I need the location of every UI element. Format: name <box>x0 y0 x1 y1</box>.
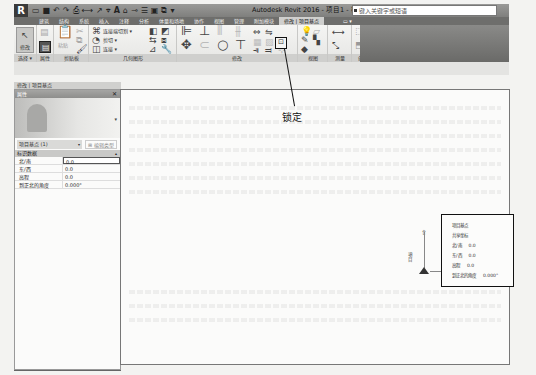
revit-window: R ▭ ■ ↶ ↷ ⎙ ⟷ ↗ ⌖ A ⌂ ⊸ ☰ ▣ ⧉ ▾ Autodesk… <box>0 0 536 375</box>
panel-clipboard: 📋 粘贴 ✂ ⧉ 🖌 剪贴板 <box>54 25 89 62</box>
properties-icon: ▤ <box>42 43 50 52</box>
filter-row: 项目基点 (1) ▾ ⊞ 编辑类型 <box>15 138 120 150</box>
panel-properties-label: 属性 <box>37 54 53 62</box>
element-filter-select[interactable]: 项目基点 (1) ▾ <box>17 140 82 149</box>
base-point-info-box: 项目基点 共享坐标 北/南0.0 东/西0.0 高程0.0 到正北的角度0.00… <box>441 214 514 287</box>
tab-insert[interactable]: 插入 <box>94 17 114 25</box>
chevron-down-icon: ▾ <box>78 140 80 149</box>
north-south-input[interactable]: 0.0 <box>63 157 120 164</box>
eraser-icon[interactable]: ◆ <box>301 45 308 54</box>
mirror-axis-icon[interactable]: ⫴ <box>217 26 222 35</box>
modify-button[interactable]: ↖ 修改 <box>16 27 34 53</box>
tab-modify-project-base-point[interactable]: 修改 | 项目基点 <box>279 17 324 25</box>
thin-lines-icon[interactable]: ☰ <box>141 4 148 17</box>
tab-add-ins[interactable]: 附加模块 <box>249 17 279 25</box>
panel-view-label: 视图 <box>298 54 327 62</box>
panel-properties: ▤ ▤ 属性 <box>37 25 54 62</box>
context-label: 修改 | 项目基点 <box>14 82 121 89</box>
type-selector-preview[interactable]: ▾ <box>15 98 120 138</box>
pin-icon: ⊡ <box>278 38 284 46</box>
tab-analyze[interactable]: 分析 <box>134 17 154 25</box>
mirror-draw-icon[interactable]: ⫵ <box>235 26 241 35</box>
ribbon-tabs: 建筑 结构 系统 插入 注释 分析 体量和场地 协作 视图 管理 附加模块 修改… <box>14 17 509 25</box>
properties-palette: 属性 ✕ ▾ 项目基点 (1) ▾ ⊞ 编辑类型 标识数据 ▴ 北/南 0.0 … <box>14 89 121 370</box>
property-row: 东/西 0.0 <box>15 165 120 173</box>
options-bar <box>14 62 509 75</box>
offset-icon[interactable]: ⊥ <box>199 26 210 35</box>
linework-icon[interactable]: ⊿ <box>149 45 157 54</box>
infocenter-search-input[interactable]: 键入关键字或短语 <box>352 5 497 16</box>
trim-extend-icon[interactable]: ⊤ <box>235 40 246 49</box>
east-west-input[interactable]: 0.0 <box>63 165 120 172</box>
tab-annotate[interactable]: 注释 <box>114 17 134 25</box>
text-icon[interactable]: A <box>114 4 120 17</box>
collapse-icon[interactable]: ▴ <box>115 150 117 157</box>
pin-lock-button[interactable]: ⊡ <box>275 37 287 49</box>
property-row: 到正北的角度 0.000° <box>15 181 120 189</box>
property-row: 高程 0.0 <box>15 173 120 181</box>
panel-view: 💡 ▱ ✎ ▚ ◆ 视图 <box>298 25 328 62</box>
move-icon[interactable]: ✥ <box>181 40 192 49</box>
switch-windows-icon[interactable]: ⧉ <box>161 4 167 17</box>
redo-icon[interactable]: ↷ <box>63 4 70 17</box>
chevron-down-icon[interactable]: ▾ <box>114 116 117 122</box>
base-point-side-label: 項目 <box>406 252 412 262</box>
project-base-point-icon[interactable] <box>419 267 429 274</box>
panel-clipboard-label: 剪贴板 <box>54 54 88 62</box>
panel-geometry: ⌘ 连接端切割 ▾ ◔ 剪切 ▾ ◫ 连接 ▾ ◧ ◩ ⇆ ⧈ ⊿ 🔧 几何图形 <box>89 25 177 62</box>
rotate-icon[interactable]: ○ <box>217 40 228 49</box>
save-icon[interactable]: ■ <box>43 4 51 17</box>
panel-modify-label: 修改 <box>177 54 297 62</box>
qat-dropdown-icon[interactable]: ▾ <box>170 4 174 17</box>
align-icon[interactable]: ⊫ <box>181 26 192 35</box>
title-bar: R ▭ ■ ↶ ↷ ⎙ ⟷ ↗ ⌖ A ⌂ ⊸ ☰ ▣ ⧉ ▾ Autodesk… <box>14 4 509 17</box>
measure-between-icon[interactable]: ⟷ <box>332 28 345 37</box>
edit-type-button[interactable]: ⊞ 编辑类型 <box>85 140 117 149</box>
properties-header: 属性 ✕ <box>15 90 120 98</box>
quick-access-toolbar: ▭ ■ ↶ ↷ ⎙ ⟷ ↗ ⌖ A ⌂ ⊸ ☰ ▣ ⧉ ▾ <box>28 4 174 17</box>
panel-select-label[interactable]: 选择 ▾ <box>14 54 36 62</box>
match-properties-icon[interactable]: 🖌 <box>76 45 87 54</box>
split-gap-icon[interactable]: ⇋ <box>265 28 273 37</box>
panel-measure: ⟷ ⤡ 测量 <box>328 25 352 62</box>
group-header-identity-data[interactable]: 标识数据 ▴ <box>15 150 120 157</box>
tab-systems[interactable]: 系统 <box>74 17 94 25</box>
application-menu-button[interactable]: R <box>14 4 28 17</box>
properties-toggle-button[interactable]: ▤ <box>39 41 51 53</box>
close-hidden-icon[interactable]: ▣ <box>151 4 159 17</box>
paint-view-icon[interactable]: ▚ <box>313 36 320 45</box>
elevation-input[interactable]: 0.0 <box>63 173 120 180</box>
close-icon[interactable]: ✕ <box>112 90 117 98</box>
3d-view-icon[interactable]: ⌂ <box>123 4 128 17</box>
wrench-icon[interactable]: 🔧 <box>161 45 172 54</box>
ribbon-empty-area <box>360 25 509 62</box>
ribbon-minimize-toggle[interactable]: ▭ ▾ <box>338 17 357 25</box>
paste-icon[interactable]: 📋 <box>57 27 73 36</box>
section-icon[interactable]: ⊸ <box>131 4 138 17</box>
property-row: 北/南 0.0 <box>15 157 120 165</box>
panel-geometry-label: 几何图形 <box>89 54 176 62</box>
type-thumbnail-icon <box>27 104 47 132</box>
join-icon[interactable]: ◫ <box>92 45 101 54</box>
cursor-arrow-icon: ↖ <box>21 31 29 40</box>
type-properties-icon[interactable]: ▤ <box>40 28 49 37</box>
undo-icon[interactable]: ↶ <box>53 4 60 17</box>
callout-label: 锁定 <box>282 109 302 124</box>
measure-icon[interactable]: ⟷ <box>82 4 93 17</box>
angle-to-true-north-input[interactable]: 0.000° <box>63 181 120 188</box>
panel-measure-label: 测量 <box>328 54 351 62</box>
tab-architecture[interactable]: 建筑 <box>34 17 54 25</box>
copy-element-icon[interactable]: ⊂ <box>199 40 210 49</box>
base-point-axis-vertical <box>424 232 425 268</box>
dimension-icon[interactable]: ↗ <box>96 4 103 17</box>
panel-select: ↖ 修改 选择 ▾ <box>14 25 37 62</box>
tag-icon[interactable]: ⌖ <box>106 4 111 17</box>
split-element-icon[interactable]: ⇔ <box>253 28 261 37</box>
print-icon[interactable]: ⎙ <box>73 4 79 17</box>
open-icon[interactable]: ▭ <box>32 4 40 17</box>
aligned-dimension-icon[interactable]: ⤡ <box>332 42 339 51</box>
